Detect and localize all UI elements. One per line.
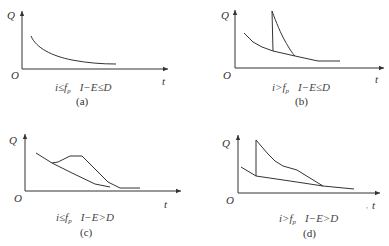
panel-d-condition-sub: p — [293, 218, 297, 226]
panel-b-condition-left: i>f — [272, 81, 286, 93]
panel-b-caption: (b) — [295, 96, 308, 107]
panel-a-origin-label: O — [11, 70, 19, 81]
panel-c-upper-curve — [52, 156, 140, 188]
panel-b-condition-sub: p — [286, 87, 290, 95]
panel-d-condition-left: i>f — [279, 212, 293, 224]
panel-d-caption: (d) — [303, 228, 316, 239]
panel-a-condition-sub: p — [67, 87, 71, 95]
panel-b-y-axis-label: Q — [221, 10, 229, 21]
panel-d-condition-right: I−E>D — [305, 212, 338, 224]
panel-d-x-axis-label: t — [372, 200, 375, 211]
panel-a-caption: (a) — [76, 96, 88, 107]
panel-a-x-axis-label: t — [162, 76, 165, 87]
panel-d-spike-curve — [256, 140, 323, 186]
panel-c-x-axis-label: t — [164, 199, 167, 210]
panel-a-condition-left: i≤f — [55, 81, 67, 93]
panel-a-y-axis-label: Q — [7, 10, 15, 21]
panel-c-origin-label: O — [14, 193, 22, 204]
panel-a-plot — [22, 11, 168, 69]
panel-c-condition-right: I−E>D — [81, 211, 114, 223]
panel-c-y-axis-label: Q — [9, 135, 17, 146]
panel-a-condition: i≤fpI−E≤D — [55, 82, 111, 95]
panel-c-caption: (c) — [80, 227, 92, 238]
panel-b-x-axis-label: t — [375, 74, 378, 85]
panel-d-y-axis-label: Q — [222, 138, 230, 149]
panel-c-condition: i≤fpI−E>D — [56, 212, 114, 225]
panel-c-condition-sub: p — [68, 217, 72, 225]
panel-d-stray-mark: , — [366, 202, 368, 210]
panel-d-condition: i>fpI−E>D — [279, 213, 338, 226]
panel-b-condition: i>fpI−E≤D — [272, 82, 330, 95]
panel-b-spike-curve — [272, 11, 295, 56]
panel-d-plot — [238, 135, 380, 193]
panel-c-base-line — [36, 153, 110, 187]
panel-d-origin-label: O — [226, 195, 234, 206]
panel-b-base-curve — [244, 33, 340, 61]
panel-a-condition-right: I−E≤D — [80, 81, 112, 93]
figure-canvas — [0, 0, 389, 246]
panel-c-condition-left: i≤f — [56, 211, 68, 223]
panel-b-origin-label: O — [223, 70, 231, 81]
panel-b-plot — [235, 10, 384, 68]
panel-c-plot — [25, 134, 181, 191]
panel-b-condition-right: I−E≤D — [298, 81, 330, 93]
panel-a-recession-curve — [31, 36, 116, 64]
